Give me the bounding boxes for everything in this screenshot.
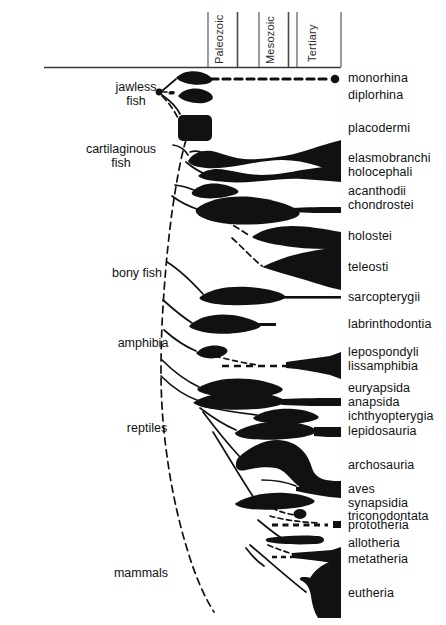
group-label-line: mammals: [86, 566, 196, 580]
group-label-line: reptiles: [92, 421, 202, 435]
taxon-label-eutheria: eutheria: [348, 587, 394, 600]
group-label-mammals: mammals: [86, 566, 196, 580]
taxon-label-labrinthodontia: labrinthodontia: [348, 318, 432, 331]
taxon-label-monorhina: monorhina: [348, 72, 408, 85]
era-label-tertiary: Tertiary: [306, 18, 318, 62]
group-label-reptiles: reptiles: [92, 421, 202, 435]
group-label-line: fish: [86, 94, 186, 108]
taxon-label-acanthodii: acanthodii: [348, 185, 406, 198]
taxon-label-synapsidia: synapsidia: [348, 497, 408, 510]
taxon-label-aves: aves: [348, 483, 375, 496]
taxon-label-teleosti: teleosti: [348, 261, 388, 274]
group-label-amphibia: amphibia: [88, 336, 198, 350]
taxon-label-anapsida: anapsida: [348, 396, 400, 409]
group-label-line: cartilaginous: [56, 142, 186, 156]
range-eutheria: [300, 559, 341, 618]
group-label-line: bony fish: [82, 266, 192, 280]
range-labrinthodontia: [189, 314, 260, 333]
range-allotheria: [266, 536, 324, 545]
range-acanthodii: [192, 183, 239, 198]
range-ichthyopterygia: [253, 409, 318, 424]
era-label-paleozoic: Paleozoic: [213, 14, 225, 64]
taxon-label-archosauria: archosauria: [348, 459, 414, 472]
taxon-label-lissamphibia: lissamphibia: [348, 360, 418, 373]
range-synapsidia: [235, 493, 315, 510]
group-label-line: jawless: [86, 80, 186, 94]
range-sarcopterygii: [199, 287, 285, 305]
taxon-label-euryapsida: euryapsida: [348, 382, 410, 395]
range-lepospondyli: [196, 345, 227, 358]
range-teleosti: [262, 247, 341, 290]
group-label-line: amphibia: [88, 336, 198, 350]
range-triconodontata: [294, 509, 307, 519]
taxon-label-ichthyopterygia: ichthyopterygia: [348, 410, 434, 423]
taxon-label-sarcopterygii: sarcopterygii: [348, 291, 420, 304]
range-holostei: [252, 226, 341, 249]
group-label-jawless-fish: jawless fish: [86, 80, 186, 108]
era-frame: [44, 12, 341, 68]
taxon-label-placodermi: placodermi: [348, 122, 410, 135]
diagram-canvas: Paleozoic Mesozoic Tertiary jawless fish…: [0, 0, 446, 625]
taxon-label-prototheria: prototheria: [348, 519, 409, 532]
taxon-label-elasmobranchi: elasmobranchi: [348, 152, 431, 165]
range-placodermi: [178, 115, 212, 141]
taxon-label-lepospondyli: lepospondyli: [348, 346, 419, 359]
taxon-label-lepidosauria: lepidosauria: [348, 425, 417, 438]
taxon-label-holostei: holostei: [348, 230, 392, 243]
range-lepidosauria: [235, 422, 317, 440]
group-label-bony-fish: bony fish: [82, 266, 192, 280]
group-label-cartilaginous-fish: cartilaginous fish: [56, 142, 186, 170]
range-lissamphibia: [286, 352, 341, 379]
group-label-line: fish: [56, 156, 186, 170]
taxon-label-chondrostei: chondrostei: [348, 199, 414, 212]
taxon-label-holocephali: holocephali: [348, 166, 412, 179]
taxon-label-allotheria: allotheria: [348, 537, 400, 550]
range-chondrostei: [196, 197, 300, 225]
era-label-mesozoic: Mesozoic: [264, 14, 276, 64]
taxon-label-metatheria: metatheria: [348, 553, 408, 566]
taxon-label-diplorhina: diplorhina: [348, 89, 403, 102]
